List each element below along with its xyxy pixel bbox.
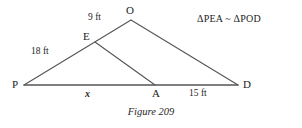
vertex-label-p: P (12, 79, 18, 90)
measure-label-ad: 15 ft (189, 89, 207, 99)
vertex-label-a: A (152, 88, 160, 99)
measure-label-pa: x (85, 89, 90, 99)
segment-o-d (131, 20, 238, 85)
vertex-label-o: O (126, 5, 134, 16)
segment-e-a (95, 42, 155, 85)
geometry-figure: P E O A D 9 ft 18 ft x 15 ft ΔPEA ~ ΔPOD… (0, 0, 302, 128)
measure-label-pe: 18 ft (31, 47, 49, 57)
vertex-label-d: D (243, 79, 251, 90)
similarity-statement: ΔPEA ~ ΔPOD (197, 14, 261, 24)
figure-caption: Figure 209 (0, 106, 302, 117)
measure-label-eo: 9 ft (88, 13, 101, 23)
vertex-label-e: E (83, 31, 90, 42)
